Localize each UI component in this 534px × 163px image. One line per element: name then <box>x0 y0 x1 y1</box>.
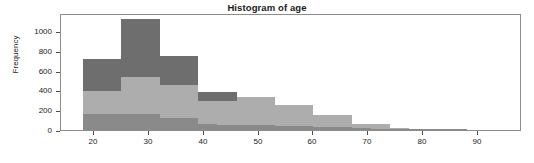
x-tick-label: 70 <box>355 137 379 146</box>
x-tick-label: 90 <box>465 137 489 146</box>
x-tick-mark <box>367 131 368 135</box>
histogram-bar <box>275 126 294 130</box>
histogram-bar <box>333 127 352 130</box>
y-tick-label: 1000 <box>18 27 52 36</box>
x-tick-mark <box>422 131 423 135</box>
y-tick-label: 400 <box>18 86 52 95</box>
plot-area <box>60 14 521 131</box>
x-tick-mark <box>93 131 94 135</box>
x-tick-label: 60 <box>300 137 324 146</box>
x-tick-label: 40 <box>191 137 215 146</box>
histogram-bar <box>448 129 467 130</box>
x-tick-mark <box>203 131 204 135</box>
x-tick-label: 80 <box>410 137 434 146</box>
y-tick-mark <box>56 32 60 33</box>
y-tick-mark <box>56 131 60 132</box>
x-tick-label: 50 <box>246 137 270 146</box>
y-tick-mark <box>56 52 60 53</box>
histogram-bar <box>102 114 121 130</box>
histogram-bar <box>83 114 102 130</box>
histogram-bar <box>429 129 448 130</box>
y-tick-label: 200 <box>18 106 52 115</box>
x-tick-mark <box>148 131 149 135</box>
histogram-bar <box>179 118 198 130</box>
histogram-bar <box>313 127 332 130</box>
histogram-bar <box>294 126 313 130</box>
histogram-bar <box>121 114 140 130</box>
y-tick-label: 0 <box>18 126 52 135</box>
y-tick-label: 600 <box>18 67 52 76</box>
histogram-bar <box>256 125 275 130</box>
y-tick-mark <box>56 72 60 73</box>
histogram-bar <box>141 114 160 130</box>
histogram-bar <box>390 129 409 130</box>
histogram-figure: Histogram of age Frequency 0200400600800… <box>0 0 534 163</box>
x-tick-mark <box>477 131 478 135</box>
histogram-bar <box>160 118 179 130</box>
y-tick-mark <box>56 111 60 112</box>
histogram-bar <box>198 124 217 130</box>
y-tick-label: 800 <box>18 47 52 56</box>
histogram-bar <box>352 128 371 130</box>
x-tick-mark <box>312 131 313 135</box>
x-tick-label: 30 <box>136 137 160 146</box>
y-tick-mark <box>56 91 60 92</box>
histogram-bar <box>409 129 428 130</box>
histogram-bar <box>217 125 236 130</box>
x-tick-mark <box>258 131 259 135</box>
histogram-bar <box>371 129 390 130</box>
x-tick-label: 20 <box>81 137 105 146</box>
histogram-bar <box>237 125 256 130</box>
chart-title: Histogram of age <box>0 2 534 13</box>
